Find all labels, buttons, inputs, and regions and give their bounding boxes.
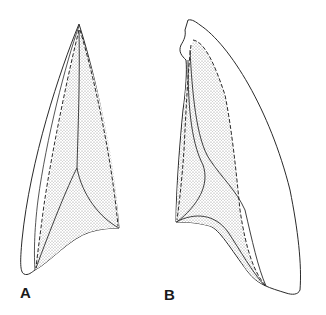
figure-diagram (0, 0, 326, 315)
panel-a (21, 24, 119, 275)
panel-b (176, 20, 301, 294)
panel-b-label: B (164, 286, 175, 303)
panel-a-label: A (20, 284, 31, 301)
